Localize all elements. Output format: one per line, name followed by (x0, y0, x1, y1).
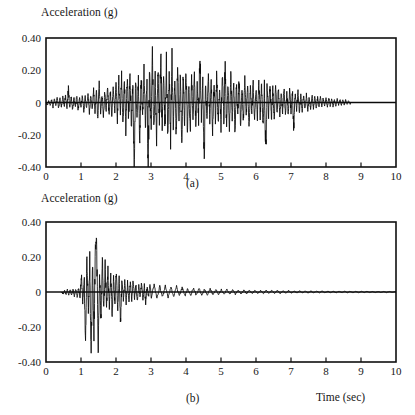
x-tick-label: 7 (288, 365, 294, 377)
x-tick-label: 1 (78, 365, 84, 377)
x-tick-label: 0 (43, 365, 49, 377)
x-tick-label: 1 (78, 170, 84, 182)
y-tick-label: 0.40 (22, 216, 42, 228)
x-tick-label: 8 (323, 170, 329, 182)
x-tick-label: 3 (148, 365, 154, 377)
y-tick-label: -0.20 (18, 321, 41, 333)
x-tick-label: 10 (391, 365, 403, 377)
x-tick-label: 6 (253, 365, 259, 377)
x-tick-label: 10 (391, 170, 403, 182)
x-tick-label: 8 (323, 365, 329, 377)
y-tick-label: 0 (36, 97, 42, 109)
x-tick-label: 5 (218, 365, 224, 377)
x-tick-label: 4 (183, 365, 189, 377)
x-tick-label: 2 (113, 170, 119, 182)
acceleration-trace (46, 46, 395, 167)
x-tick-label: 9 (358, 170, 364, 182)
x-tick-label: 7 (288, 170, 294, 182)
y-tick-label: -0.20 (18, 129, 41, 141)
x-axis-title: Time (sec) (316, 391, 365, 403)
x-tick-label: 3 (148, 170, 154, 182)
chart-b-plot: 0.400.200-0.20-0.40012345678910 (0, 185, 415, 415)
chart-panel-b: Acceleration (g) 0.400.200-0.20-0.400123… (0, 185, 415, 415)
y-tick-label: 0.40 (22, 32, 42, 44)
chart-panel-a: Acceleration (g) 0.400.200-0.20-0.400123… (0, 0, 415, 200)
x-tick-label: 2 (113, 365, 119, 377)
y-tick-label: -0.40 (18, 356, 41, 368)
acceleration-trace (62, 238, 396, 353)
figure-acceleration-time-histories: Acceleration (g) 0.400.200-0.20-0.400123… (0, 0, 415, 415)
x-tick-label: 6 (253, 170, 259, 182)
y-tick-label: -0.40 (18, 161, 41, 173)
x-tick-label: 5 (218, 170, 224, 182)
y-tick-label: 0.20 (22, 251, 42, 263)
x-tick-label: 0 (43, 170, 49, 182)
x-tick-label: 9 (358, 365, 364, 377)
chart-b-caption: (b) (186, 392, 199, 404)
y-tick-label: 0.20 (22, 64, 42, 76)
chart-a-plot: 0.400.200-0.20-0.40012345678910 (0, 0, 415, 200)
y-tick-label: 0 (36, 286, 42, 298)
